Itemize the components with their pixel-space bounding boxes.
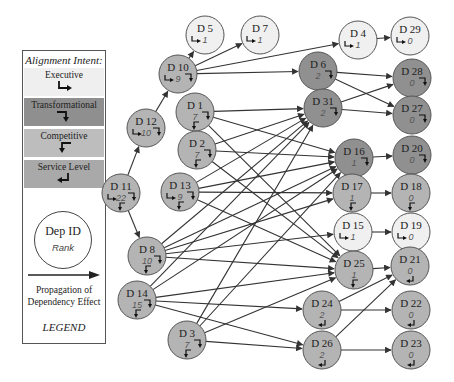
node-d1[interactable]: D 17 [176, 93, 214, 131]
node-d17[interactable]: D 171 [333, 174, 371, 212]
node-rank: 0 [407, 36, 412, 46]
node-id: D 10 [167, 61, 189, 73]
node-rank: 2 [319, 108, 325, 118]
node-rank: 10 [141, 128, 151, 138]
node-d7[interactable]: D 71 [241, 16, 279, 54]
edge-d11-to-d8 [128, 211, 139, 238]
edge-d10-to-d6 [197, 71, 298, 73]
node-id: D 14 [126, 287, 148, 299]
node-rank: 0 [408, 193, 413, 203]
node-id: D 18 [400, 180, 422, 192]
node-d18[interactable]: D 180 [392, 174, 430, 212]
node-rank: 0 [408, 310, 413, 320]
edge-d31-to-d27 [342, 109, 392, 113]
node-id: D 16 [343, 145, 365, 157]
node-id: D 3 [179, 327, 196, 339]
node-rank: 2 [318, 310, 324, 320]
edge-d25-to-d21 [373, 267, 390, 268]
node-d16[interactable]: D 161 [335, 139, 373, 177]
node-id: D 5 [197, 22, 214, 34]
edge-d1-to-d31 [214, 109, 303, 112]
dependency-diagram: Alignment Intent: Executive Transformati… [0, 0, 454, 382]
node-d19[interactable]: D 190 [392, 213, 430, 251]
node-d11[interactable]: D 1122 [102, 174, 140, 212]
node-rank: 22 [115, 193, 126, 203]
node-rank: 2 [318, 350, 324, 360]
node-d25[interactable]: D 251 [335, 251, 373, 289]
node-d15[interactable]: D 151 [334, 213, 372, 251]
node-d10[interactable]: D 109 [159, 55, 197, 93]
node-rank: 9 [177, 192, 182, 202]
node-rank: 10 [142, 256, 152, 266]
node-d4[interactable]: D 41 [339, 21, 377, 59]
node-id: D 24 [311, 297, 333, 309]
node-id: D 21 [399, 253, 421, 265]
edge-d4-to-d29 [377, 38, 390, 39]
node-rank: 15 [132, 300, 143, 310]
node-d6[interactable]: D 62 [299, 52, 337, 90]
node-d3[interactable]: D 37 [168, 321, 206, 359]
node-rank: 1 [355, 40, 360, 50]
node-rank: 0 [409, 78, 414, 88]
node-id: D 25 [343, 257, 365, 269]
node-rank: 0 [409, 115, 414, 125]
node-id: D 12 [135, 115, 157, 127]
node-d20[interactable]: D 200 [393, 136, 431, 174]
node-rank: 1 [349, 193, 354, 203]
node-d22[interactable]: D 220 [392, 291, 430, 329]
node-rank: 0 [409, 155, 414, 165]
node-d24[interactable]: D 242 [303, 291, 341, 329]
node-id: D 17 [341, 180, 363, 192]
node-id: D 7 [252, 22, 269, 34]
node-rank: 9 [175, 74, 180, 84]
node-id: D 4 [350, 27, 367, 39]
node-d14[interactable]: D 1415 [118, 281, 156, 319]
node-id: D 20 [401, 142, 423, 154]
node-rank: 1 [351, 158, 356, 168]
edge-d16-to-d20 [373, 156, 392, 157]
node-id: D 28 [401, 65, 423, 77]
edge-d6-to-d27 [335, 79, 394, 106]
node-rank: 0 [407, 266, 412, 276]
node-rank: 0 [408, 232, 413, 242]
node-rank: 0 [408, 350, 413, 360]
node-rank: 1 [350, 232, 355, 242]
node-d5[interactable]: D 51 [186, 16, 224, 54]
node-id: D 26 [311, 337, 333, 349]
node-d13[interactable]: D 139 [161, 173, 199, 211]
node-id: D 29 [399, 23, 421, 35]
node-d28[interactable]: D 280 [393, 59, 431, 97]
node-d27[interactable]: D 270 [393, 96, 431, 134]
edge-d6-to-d28 [337, 72, 392, 76]
node-id: D 13 [169, 179, 191, 191]
node-d8[interactable]: D 810 [128, 237, 166, 275]
edge-d3-to-d26 [206, 341, 302, 348]
edge-d8-to-d25 [166, 257, 334, 268]
node-id: D 15 [342, 219, 364, 231]
edge-d11-to-d12 [128, 147, 139, 176]
node-id: D 8 [139, 243, 156, 255]
edge-d2-to-d16 [216, 151, 334, 157]
node-d2[interactable]: D 27 [178, 131, 216, 169]
node-d23[interactable]: D 230 [392, 331, 430, 369]
node-id: D 2 [189, 137, 205, 149]
node-id: D 31 [312, 95, 334, 107]
node-id: D 19 [400, 219, 422, 231]
node-d29[interactable]: D 290 [391, 17, 429, 55]
edge-d13-to-d17 [199, 192, 332, 193]
node-d31[interactable]: D 312 [304, 89, 342, 127]
node-id: D 6 [310, 58, 327, 70]
node-id: D 23 [400, 337, 422, 349]
node-rank: 1 [202, 35, 207, 45]
node-rank: 2 [314, 71, 320, 81]
edge-d31-to-d28 [341, 84, 393, 102]
dependency-graph: D 51D 71D 109D 41D 290D 62D 280D 17D 312… [0, 0, 454, 382]
node-rank: 1 [351, 270, 356, 280]
edge-d14-to-d24 [156, 301, 302, 309]
node-id: D 22 [400, 297, 422, 309]
node-rank: 1 [257, 35, 262, 45]
node-d21[interactable]: D 210 [391, 247, 429, 285]
node-d12[interactable]: D 1210 [127, 109, 165, 147]
node-id: D 1 [187, 99, 203, 111]
node-d26[interactable]: D 262 [303, 331, 341, 369]
